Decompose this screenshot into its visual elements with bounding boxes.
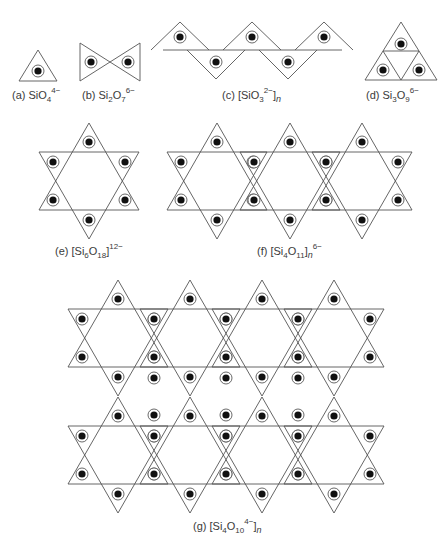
silicon-atom-icon <box>292 430 304 442</box>
silicon-dot-icon <box>212 58 219 65</box>
silicon-dot-icon <box>222 315 229 322</box>
silicon-atom-icon <box>76 351 88 363</box>
silicon-atom-icon <box>377 64 389 76</box>
silicon-atom-icon <box>220 351 232 363</box>
silicon-dot-icon <box>330 373 337 380</box>
formula-part: SiO <box>29 89 47 101</box>
silicon-dot-icon <box>248 33 255 40</box>
silicon-atom-icon <box>320 194 332 206</box>
panel-letter: (a) <box>12 89 29 101</box>
panel-label-b: (b) Si2O76− <box>82 89 135 101</box>
silicon-atom-icon <box>292 468 304 480</box>
panel-c-chain <box>151 22 353 79</box>
silicon-atom-icon <box>148 430 160 442</box>
silicon-atom-icon <box>148 468 160 480</box>
panel-label-a: (a) SiO44− <box>12 89 60 101</box>
silicon-dot-icon <box>284 58 291 65</box>
silicon-dot-icon <box>213 138 220 145</box>
silicon-atom-icon <box>112 371 124 383</box>
silicon-dot-icon <box>124 58 131 65</box>
silicon-dot-icon <box>186 373 193 380</box>
silicon-atom-icon <box>83 214 95 226</box>
silicon-atom-icon <box>248 156 260 168</box>
panel-label-e: (e) [Si6O18]12− <box>55 245 123 257</box>
silicon-atom-icon <box>328 410 340 422</box>
silicon-atom-icon <box>256 410 268 422</box>
silicon-dot-icon <box>114 295 121 302</box>
panel-b-pyrosilicate <box>80 43 140 81</box>
silicon-dot-icon <box>150 315 157 322</box>
silicon-dot-icon <box>322 196 329 203</box>
silicon-dot-icon <box>294 353 301 360</box>
silicon-atom-icon <box>292 409 304 421</box>
silicon-atom-icon <box>112 488 124 500</box>
silicon-atom-icon <box>284 136 296 148</box>
silicon-dot-icon <box>394 196 401 203</box>
silicon-atom-icon <box>364 430 376 442</box>
silicon-dot-icon <box>258 490 265 497</box>
formula-part: 3 <box>259 95 263 104</box>
formula-part: n <box>308 250 313 260</box>
silicon-atom-icon <box>328 488 340 500</box>
silicon-dot-icon <box>78 432 85 439</box>
silicon-dot-icon <box>213 216 220 223</box>
panel-label-f: (f) [Si4O11]n6− <box>257 245 322 261</box>
formula-part: 4− <box>51 86 60 95</box>
silicon-atom-icon <box>211 136 223 148</box>
silicon-atom-icon <box>256 488 268 500</box>
silicon-dot-icon <box>34 67 41 74</box>
silicon-atom-icon <box>119 156 131 168</box>
silicon-dot-icon <box>330 295 337 302</box>
silicon-atom-icon <box>148 409 160 421</box>
silicon-dot-icon <box>322 158 329 165</box>
formula-part: 9 <box>405 95 409 104</box>
silicon-dot-icon <box>286 138 293 145</box>
silicon-dot-icon <box>366 470 373 477</box>
silicon-atom-icon <box>413 64 425 76</box>
silicon-dot-icon <box>85 216 92 223</box>
silicon-dot-icon <box>186 295 193 302</box>
silicon-atom-icon <box>328 293 340 305</box>
silicon-atom-icon <box>122 56 134 68</box>
silicon-dot-icon <box>186 412 193 419</box>
silicon-atom-icon <box>47 156 59 168</box>
silicon-atom-icon <box>220 409 232 421</box>
silicon-atom-icon <box>248 194 260 206</box>
silicon-atom-icon <box>320 156 332 168</box>
silicon-atom-icon <box>328 371 340 383</box>
silicon-atom-icon <box>83 136 95 148</box>
silicon-dot-icon <box>222 432 229 439</box>
silicon-atom-icon <box>119 194 131 206</box>
formula-part: n <box>256 525 261 535</box>
silicon-dot-icon <box>49 196 56 203</box>
silicon-atom-icon <box>148 351 160 363</box>
silicon-dot-icon <box>87 58 94 65</box>
silicon-atom-icon <box>184 293 196 305</box>
formula-part: 18 <box>97 251 106 260</box>
formula-part: [Si <box>270 245 283 257</box>
formula-part: [Si <box>210 520 223 532</box>
silicon-dot-icon <box>85 138 92 145</box>
formula-part: 12− <box>109 242 123 251</box>
silicon-atom-icon <box>256 293 268 305</box>
silicon-atom-icon <box>32 65 44 77</box>
silicon-dot-icon <box>49 158 56 165</box>
silicon-atom-icon <box>220 430 232 442</box>
silicon-dot-icon <box>415 66 422 73</box>
silicon-atom-icon <box>364 468 376 480</box>
silicon-atom-icon <box>282 56 294 68</box>
formula-part: 4 <box>47 95 51 104</box>
silicon-atom-icon <box>220 313 232 325</box>
silicon-dot-icon <box>114 490 121 497</box>
silicon-dot-icon <box>379 66 386 73</box>
silicon-atom-icon <box>364 351 376 363</box>
silicon-atom-icon <box>220 468 232 480</box>
silicon-dot-icon <box>78 315 85 322</box>
formula-part: O <box>113 89 122 101</box>
panel-d-ring3 <box>365 22 437 80</box>
silicon-dot-icon <box>150 470 157 477</box>
silicon-atom-icon <box>220 372 232 384</box>
panel-letter: (e) <box>55 245 72 257</box>
formula-part: [SiO <box>238 89 259 101</box>
silicon-dot-icon <box>177 158 184 165</box>
